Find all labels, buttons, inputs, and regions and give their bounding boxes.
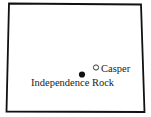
independence-rock-label: Independence Rock [31, 78, 114, 89]
casper-marker-icon [93, 65, 98, 70]
wyoming-map [0, 0, 151, 117]
casper-label: Casper [101, 64, 130, 75]
state-outline [7, 4, 145, 113]
